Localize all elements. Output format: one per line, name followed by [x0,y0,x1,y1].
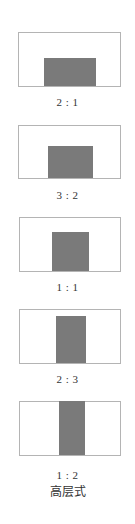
ratio-label-1-1: 1 : 1 [0,281,135,293]
diagram-caption: 高层式 [0,486,135,499]
ratio-label-3-2: 3 : 2 [0,189,135,201]
ratio-block-3-2 [48,146,93,178]
ratio-block-1-2 [59,401,85,455]
ratio-label-2-3: 2 : 3 [0,373,135,385]
ratio-label-2-1: 2 : 1 [0,96,135,108]
ratio-block-1-1 [52,232,89,271]
ratio-block-2-1 [44,58,96,86]
ratio-label-1-2: 1 : 2 [0,469,135,481]
ratio-block-2-3 [56,316,86,363]
